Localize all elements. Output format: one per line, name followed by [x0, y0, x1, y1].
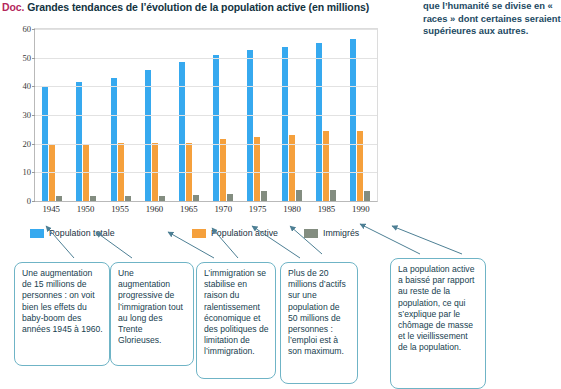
- chart-x-tick-label: 1985: [309, 204, 343, 218]
- chart-y-tick-mark: [32, 115, 35, 116]
- chart-y-tick-label: 40: [22, 81, 31, 91]
- side-note-paragraph: que l’humanité se divise en « races » do…: [423, 0, 561, 38]
- chart-x-tick-label: 1980: [275, 204, 309, 218]
- legend-label-population-active: Population active: [211, 228, 278, 238]
- legend-swatch-population-totale: [30, 229, 44, 238]
- chart-x-tick-label: 1990: [344, 204, 378, 218]
- chart-bar: [330, 190, 336, 201]
- chart-bar: [282, 47, 288, 202]
- legend-item-population-totale: Population totale: [30, 228, 115, 238]
- chart-plot-area: 0102030405060: [34, 28, 378, 202]
- chart-gridline: [35, 144, 377, 145]
- chart-bar: [111, 78, 117, 201]
- chart-gridline: [35, 86, 377, 87]
- chart-bar: [159, 196, 165, 201]
- chart-bar: [179, 62, 185, 201]
- chart-bar: [316, 43, 322, 201]
- legend-label-immigres: Immigrés: [323, 228, 359, 238]
- callout-box: Une augmentation de 15 millions de perso…: [14, 262, 110, 366]
- chart-bar: [254, 137, 260, 201]
- chart-bar: [323, 131, 329, 201]
- chart-x-tick-label: 1970: [206, 204, 240, 218]
- chart-x-tick-label: 1975: [240, 204, 274, 218]
- legend-swatch-population-active: [192, 229, 206, 238]
- chart-x-tick-label: 1945: [34, 204, 68, 218]
- chart-bar: [220, 139, 226, 201]
- callout-box: Plus de 20 millions d’actifs sur une pop…: [280, 262, 358, 384]
- chart-bar: [289, 135, 295, 201]
- chart-bar: [145, 70, 151, 201]
- chart-bar: [350, 39, 356, 201]
- chart-y-tick-label: 20: [22, 139, 31, 149]
- legend-item-immigres: Immigrés: [304, 228, 359, 238]
- chart-bar: [261, 191, 267, 201]
- legend-label-population-totale: Population totale: [49, 228, 115, 238]
- chart-y-tick-label: 0: [27, 196, 31, 206]
- chart-bar: [227, 194, 233, 201]
- chart-bar: [357, 131, 363, 201]
- bar-chart: 0102030405060 19451950195519601965197019…: [6, 24, 388, 220]
- legend-item-population-active: Population active: [192, 228, 278, 238]
- chart-y-tick-label: 50: [22, 53, 31, 63]
- chart-bar: [90, 196, 96, 201]
- chart-bar: [213, 55, 219, 201]
- chart-y-tick-mark: [32, 144, 35, 145]
- chart-y-tick-mark: [32, 86, 35, 87]
- chart-y-tick-mark: [32, 58, 35, 59]
- doc-tag: Doc.: [2, 1, 24, 13]
- chart-gridline: [35, 172, 377, 173]
- chart-x-tick-label: 1960: [137, 204, 171, 218]
- chart-x-axis-labels: 1945195019551960196519701975198019851990: [34, 204, 378, 218]
- callout-box: L’immigration se stabilise en raison du …: [196, 262, 276, 379]
- chart-y-tick-label: 60: [22, 24, 31, 34]
- chart-x-tick-label: 1965: [172, 204, 206, 218]
- chart-y-tick-mark: [32, 201, 35, 202]
- page-title-text: Grandes tendances de l’évolution de la p…: [27, 1, 369, 13]
- chart-bar: [296, 190, 302, 201]
- chart-bar: [125, 196, 131, 201]
- chart-x-tick-label: 1955: [103, 204, 137, 218]
- chart-bar: [76, 82, 82, 201]
- chart-gridline: [35, 58, 377, 59]
- chart-y-tick-label: 30: [22, 110, 31, 120]
- chart-y-tick-mark: [32, 172, 35, 173]
- chart-y-tick-label: 10: [22, 167, 31, 177]
- chart-bar: [56, 196, 62, 201]
- callout-box: Une augmentation progressive de l’immigr…: [110, 262, 194, 366]
- chart-gridline: [35, 29, 377, 30]
- callout-box: La population active a baissé par rappor…: [390, 258, 486, 389]
- chart-gridline: [35, 115, 377, 116]
- chart-bar: [247, 50, 253, 201]
- chart-x-tick-label: 1950: [68, 204, 102, 218]
- document-page: Doc. Grandes tendances de l’évolution de…: [0, 0, 561, 389]
- legend-swatch-immigres: [304, 229, 318, 238]
- chart-bar: [193, 195, 199, 201]
- chart-legend: Population totale Population active Immi…: [24, 228, 384, 242]
- chart-y-tick-mark: [32, 29, 35, 30]
- page-title: Doc. Grandes tendances de l’évolution de…: [2, 1, 422, 13]
- chart-bar: [364, 191, 370, 201]
